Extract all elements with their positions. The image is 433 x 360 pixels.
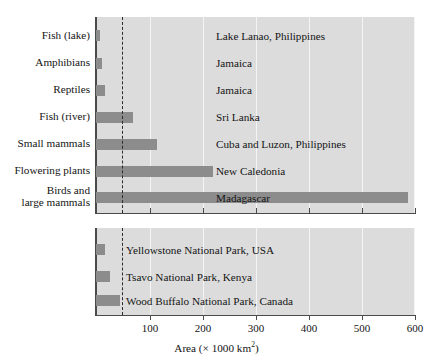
gridline-400 xyxy=(309,17,310,213)
x-axis-spine-top xyxy=(95,213,416,214)
annotation-tsavo: Tsavo National Park, Kenya xyxy=(126,271,252,283)
gridline-b-600 xyxy=(414,228,415,315)
category-label-birds-line1: Birds and xyxy=(47,184,90,196)
bar-fish-river xyxy=(96,112,133,123)
tick-label-300: 300 xyxy=(248,322,265,334)
tick-label-200: 200 xyxy=(195,322,212,334)
threshold-line-bottom xyxy=(122,228,123,315)
tick-200 xyxy=(203,315,204,320)
tick-top-200 xyxy=(203,208,204,213)
x-axis-title-prefix: Area (× 1000 km xyxy=(174,342,251,354)
category-label-fish-lake: Fish (lake) xyxy=(42,29,90,41)
gridline-500 xyxy=(362,17,363,213)
tick-label-600: 600 xyxy=(407,322,424,334)
tick-300 xyxy=(256,315,257,320)
gridline-b-500 xyxy=(362,228,363,315)
bar-fish-lake xyxy=(96,30,100,41)
tick-500 xyxy=(362,315,363,320)
tick-top-100 xyxy=(150,208,151,213)
annotation-jamaica-amphibians: Jamaica xyxy=(216,57,252,69)
annotation-cuba-luzon: Cuba and Luzon, Philippines xyxy=(216,138,346,150)
category-label-amphibians: Amphibians xyxy=(35,56,90,68)
x-axis-title-suffix: ) xyxy=(255,342,259,354)
bar-tsavo xyxy=(96,271,110,282)
gridline-600 xyxy=(414,17,415,213)
annotation-sri-lanka: Sri Lanka xyxy=(216,111,260,123)
category-label-small-mammals: Small mammals xyxy=(18,137,90,149)
bar-wood-buffalo xyxy=(96,295,120,306)
category-label-flowering-plants: Flowering plants xyxy=(14,164,90,176)
tick-label-500: 500 xyxy=(354,322,371,334)
annotation-new-caledonia: New Caledonia xyxy=(216,165,285,177)
annotation-yellowstone: Yellowstone National Park, USA xyxy=(126,244,274,256)
bar-amphibians xyxy=(96,58,102,69)
tick-top-400 xyxy=(309,208,310,213)
category-label-reptiles: Reptiles xyxy=(53,83,90,95)
bar-flowering-plants xyxy=(96,166,213,177)
annotation-wood-buffalo: Wood Buffalo National Park, Canada xyxy=(126,295,293,307)
tick-label-100: 100 xyxy=(142,322,159,334)
chart-figure: Fish (lake) Amphibians Reptiles Fish (ri… xyxy=(0,0,433,360)
tick-400 xyxy=(309,315,310,320)
gridline-100 xyxy=(150,17,151,213)
tick-top-600 xyxy=(415,208,416,213)
tick-top-300 xyxy=(256,208,257,213)
category-label-fish-river: Fish (river) xyxy=(39,110,90,122)
tick-600 xyxy=(415,315,416,320)
tick-100 xyxy=(150,315,151,320)
threshold-line-top xyxy=(122,17,123,213)
annotation-lake-lanao: Lake Lanao, Philippines xyxy=(216,30,325,42)
category-label-birds-line2: large mammals xyxy=(22,196,90,208)
tick-top-500 xyxy=(362,208,363,213)
annotation-jamaica-reptiles: Jamaica xyxy=(216,84,252,96)
bar-small-mammals xyxy=(96,139,157,150)
annotation-madagascar: Madagascar xyxy=(216,192,270,204)
gridline-b-400 xyxy=(309,228,310,315)
gridline-200 xyxy=(203,17,204,213)
bar-reptiles xyxy=(96,85,105,96)
bar-yellowstone xyxy=(96,244,105,255)
tick-label-400: 400 xyxy=(301,322,318,334)
x-axis-title: Area (× 1000 km2) xyxy=(0,340,433,354)
